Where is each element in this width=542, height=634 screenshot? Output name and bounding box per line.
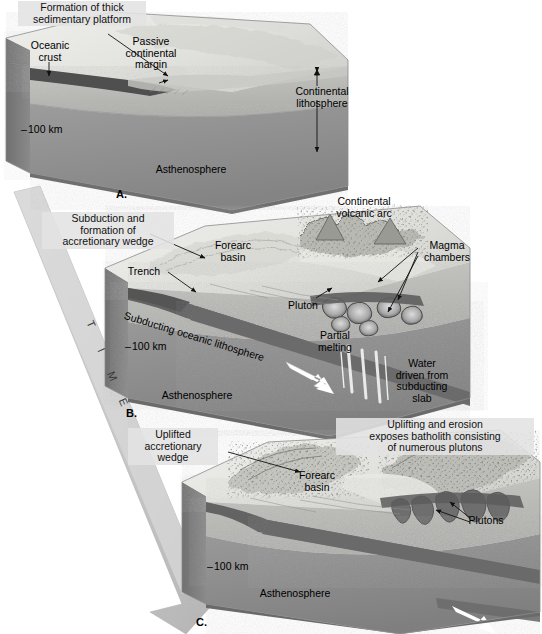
label-formation-of-thick-sedimentary-platform: Formation of thick sedimentary platform bbox=[18, 1, 146, 26]
label-forearc-basin-b: Forearc basin bbox=[206, 240, 260, 263]
label-pluton: Pluton bbox=[282, 300, 324, 312]
label-uplifting-and-erosion-exposes-batholith: Uplifting and erosion exposes batholith … bbox=[336, 418, 534, 455]
label-partial-melting: Partial melting bbox=[306, 330, 364, 353]
label-magma-chambers: Magma chambers bbox=[416, 240, 478, 263]
figure-canvas: Formation of thick sedimentary platform … bbox=[0, 0, 542, 634]
label-depth-100km-b: 100 km bbox=[132, 341, 184, 353]
label-asthenosphere-c: Asthenosphere bbox=[250, 588, 340, 600]
label-subduction-and-formation-of-accretionary-wedge: Subduction and formation of accretionary… bbox=[42, 212, 174, 249]
label-depth-100km-c: 100 km bbox=[214, 561, 266, 573]
block-diagram-artwork bbox=[0, 0, 542, 634]
label-plutons: Plutons bbox=[460, 515, 512, 527]
depth-tick-b: – bbox=[125, 341, 131, 353]
label-asthenosphere-b: Asthenosphere bbox=[152, 390, 242, 402]
depth-tick-a: – bbox=[21, 124, 27, 136]
label-trench: Trench bbox=[122, 266, 166, 278]
panel-letter-b: B. bbox=[126, 407, 137, 419]
panel-letter-a: A. bbox=[116, 188, 127, 200]
label-passive-continental-margin: Passive continental margin bbox=[112, 36, 190, 71]
label-oceanic-crust: Oceanic crust bbox=[22, 40, 78, 63]
label-water-driven-from-subducting-slab: Water driven from subducting slab bbox=[390, 358, 454, 404]
label-uplifted-accretionary-wedge: Uplifted accretionary wedge bbox=[128, 428, 218, 465]
label-asthenosphere-a: Asthenosphere bbox=[146, 164, 236, 176]
label-forearc-basin-c: Forearc basin bbox=[290, 470, 344, 493]
panel-letter-c: C. bbox=[196, 616, 207, 628]
label-depth-100km-a: 100 km bbox=[28, 124, 80, 136]
panel-c-block bbox=[182, 430, 540, 634]
depth-tick-c: – bbox=[207, 561, 213, 573]
label-continental-lithosphere: Continental lithosphere bbox=[285, 86, 359, 109]
label-continental-volcanic-arc: Continental volcanic arc bbox=[320, 196, 408, 219]
